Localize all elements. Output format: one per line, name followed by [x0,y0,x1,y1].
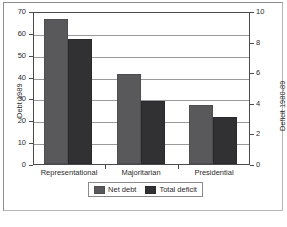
left-axis-tick-label: 20 [0,117,26,125]
legend-label: Total deficit [159,185,197,194]
right-axis-tick [250,43,254,44]
right-axis-tick [250,73,254,74]
right-axis-title: Deficit 1980-89 [278,81,287,131]
bar-net-debt [117,74,141,164]
right-axis-tick-label: 8 [256,39,260,47]
legend-swatch [145,186,156,194]
right-axis-tick-label: 2 [256,130,260,138]
right-axis-tick-label: 10 [256,8,264,16]
right-axis-tick-label: 0 [256,161,260,169]
plot-area [33,12,250,165]
legend-label: Net debt [108,185,136,194]
bar-net-debt [44,19,68,164]
left-axis-tick-label: 0 [0,161,26,169]
left-axis-tick-label: 60 [0,30,26,38]
right-axis-tick [250,165,254,166]
category-label: Presidential [178,168,250,177]
bar-net-debt [189,105,213,164]
right-axis-tick [250,12,254,13]
left-axis-tick-label: 40 [0,74,26,82]
category-label: Representational [33,168,105,177]
legend-swatch [94,186,105,194]
bar-total-deficit [68,39,92,164]
bar-total-deficit [141,101,165,164]
right-axis-tick-label: 4 [256,100,260,108]
right-axis-tick-label: 6 [256,69,260,77]
chart-figure: 010203040506070 0246810 Representational… [0,0,287,227]
right-axis-tick [250,104,254,105]
category-separator-tick [178,165,179,169]
chart-legend: Net debtTotal deficit [88,182,203,197]
left-axis-tick-label: 10 [0,139,26,147]
category-separator-tick [105,165,106,169]
left-axis-tick-label: 70 [0,8,26,16]
legend-entry: Total deficit [145,185,197,194]
legend-entry: Net debt [94,185,136,194]
left-axis-tick [29,165,33,166]
category-label: Majoritarian [105,168,177,177]
left-axis-tick-label: 50 [0,52,26,60]
right-axis-tick [250,134,254,135]
bar-total-deficit [213,117,237,164]
left-axis-title: Debt 1989 [15,83,24,118]
